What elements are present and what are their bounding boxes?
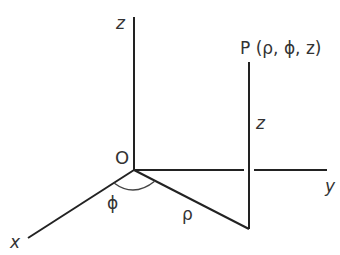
- point-p-label: P (ρ, ϕ, z): [240, 40, 321, 57]
- rho-label: ρ: [182, 206, 193, 223]
- phi-angle-arc: [114, 181, 155, 190]
- cylindrical-coordinate-diagram: z P (ρ, ϕ, z) z O y ϕ ρ x: [0, 0, 340, 255]
- origin-label: O: [115, 149, 129, 167]
- x-axis-label: x: [10, 234, 20, 251]
- phi-angle-label: ϕ: [107, 195, 118, 212]
- y-axis-label: y: [325, 178, 335, 195]
- height-z-label: z: [256, 115, 265, 132]
- z-axis-label: z: [116, 15, 125, 32]
